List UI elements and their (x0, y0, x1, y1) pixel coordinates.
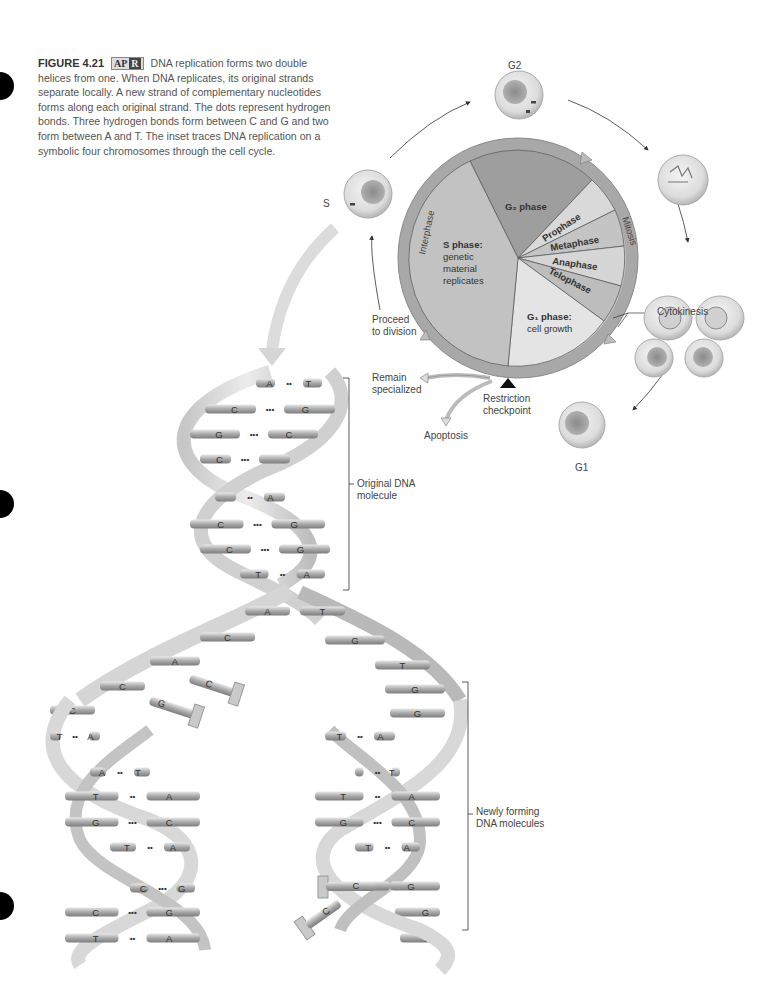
svg-text:••: •• (247, 493, 253, 502)
new-dna-label: Newly formingDNA molecules (476, 806, 544, 830)
cell-prophase (658, 155, 708, 205)
svg-text:T: T (135, 767, 141, 778)
svg-text:••: •• (147, 843, 153, 852)
svg-text:A: A (266, 378, 273, 389)
g1-phase-title: G₁ phase: (527, 311, 572, 322)
svg-text:••: •• (72, 732, 78, 741)
svg-text:C: C (92, 907, 99, 918)
g2-stage-label: G2 (508, 60, 521, 72)
svg-text:T: T (124, 842, 130, 853)
g1-stage-label: G1 (575, 462, 588, 474)
cell-daughter-left (635, 339, 673, 377)
svg-text:•••: ••• (261, 545, 270, 554)
arrow-g2-to-prophase (568, 100, 648, 150)
svg-text:••: •• (375, 792, 381, 801)
svg-text:•••: ••• (250, 430, 259, 439)
restriction-label: Restrictioncheckpoint (483, 393, 531, 417)
svg-text:G: G (351, 635, 358, 646)
svg-text:C: C (140, 883, 147, 894)
svg-text:•••: ••• (373, 818, 382, 827)
svg-text:A: A (267, 492, 274, 503)
svg-text:T: T (400, 660, 406, 671)
svg-text:G: G (411, 684, 418, 695)
s-stage-label: S (323, 198, 330, 210)
svg-text:G: G (407, 881, 414, 892)
svg-text:A: A (304, 569, 311, 580)
cell-dividing (644, 296, 744, 340)
svg-text:A: A (166, 791, 173, 802)
svg-text:C: C (231, 404, 238, 415)
svg-text:A: A (264, 606, 271, 617)
svg-text:T: T (320, 606, 326, 617)
svg-text:T: T (93, 933, 99, 944)
svg-text:A: A (87, 731, 94, 742)
svg-text:•••: ••• (128, 818, 137, 827)
cell-g1 (559, 402, 605, 448)
svg-text:C: C (216, 454, 223, 465)
s-phase-desc: genetic (443, 251, 474, 262)
svg-text:C: C (217, 519, 224, 530)
svg-text:C: C (408, 817, 415, 828)
restriction-checkpoint-marker (500, 378, 516, 388)
svg-text:T: T (306, 378, 312, 389)
arrow-s-to-g2 (390, 102, 470, 158)
svg-text:•••: ••• (158, 884, 167, 893)
svg-text:•••: ••• (128, 908, 137, 917)
svg-text:••: •• (385, 843, 391, 852)
svg-text:•••: ••• (266, 405, 275, 414)
svg-text:••: •• (357, 732, 363, 741)
svg-text:T: T (57, 731, 63, 742)
cell-g2 (495, 71, 543, 119)
svg-text:••: •• (375, 768, 381, 777)
svg-text:••: •• (117, 768, 123, 777)
arrow-to-dna (258, 348, 286, 366)
svg-text:••: •• (280, 570, 286, 579)
svg-text:C: C (119, 681, 126, 692)
svg-text:G: G (340, 817, 347, 828)
svg-text:C: C (224, 632, 231, 643)
svg-text:G: G (92, 817, 99, 828)
s-phase-title: S phase: (443, 239, 483, 250)
s-phase-desc: replicates (443, 275, 484, 286)
svg-text:G: G (166, 907, 173, 918)
svg-text:•••: ••• (253, 520, 262, 529)
svg-text:C: C (353, 880, 360, 891)
svg-text:T: T (365, 842, 371, 853)
svg-text:T: T (255, 569, 261, 580)
g2-phase-label: G₂ phase (505, 201, 547, 212)
s-phase-desc: material (443, 263, 477, 274)
cell-s (344, 170, 392, 218)
svg-text:T: T (93, 791, 99, 802)
proceed-label: Proceedto division (372, 314, 416, 338)
cell-daughter-right (685, 339, 723, 377)
svg-text:T: T (340, 791, 346, 802)
svg-text:A: A (409, 791, 416, 802)
svg-text:••: •• (130, 934, 136, 943)
svg-text:A: A (172, 656, 179, 667)
svg-text:G: G (302, 404, 309, 415)
svg-text:A: A (170, 842, 177, 853)
cytokinesis-label: Cytokinesis (657, 306, 708, 318)
g1-phase-desc: cell growth (527, 323, 572, 334)
svg-text:G: G (422, 907, 429, 918)
svg-text:T: T (389, 767, 395, 778)
svg-text:G: G (297, 544, 304, 555)
apoptosis-label: Apoptosis (424, 430, 468, 442)
svg-text:G: G (178, 883, 185, 894)
svg-text:••: •• (130, 792, 136, 801)
svg-text:A: A (99, 767, 106, 778)
svg-text:G: G (414, 708, 421, 719)
remain-label: Remainspecialized (372, 372, 421, 396)
svg-text:A: A (377, 731, 384, 742)
svg-text:••: •• (286, 379, 292, 388)
svg-text:•••: ••• (241, 455, 250, 464)
svg-text:G: G (291, 519, 298, 530)
svg-text:G: G (215, 429, 222, 440)
svg-text:T: T (337, 731, 343, 742)
svg-text:A: A (166, 933, 173, 944)
original-dna-label: Original DNAmolecule (357, 478, 415, 502)
svg-text:C: C (166, 817, 173, 828)
svg-text:C: C (286, 429, 293, 440)
svg-text:A: A (404, 842, 411, 853)
svg-text:C: C (226, 544, 233, 555)
